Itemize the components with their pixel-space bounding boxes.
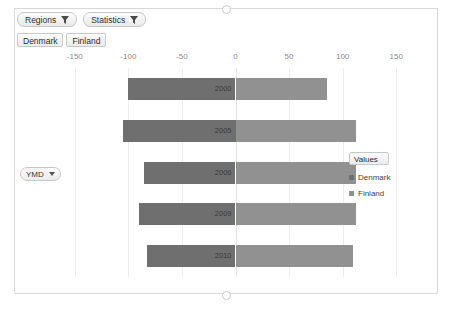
x-tick-label: -50 bbox=[176, 52, 188, 61]
x-tick-label: 100 bbox=[336, 52, 349, 61]
filter-button-statistics[interactable]: Statistics bbox=[83, 12, 146, 27]
bar-row: 2005 bbox=[48, 120, 423, 142]
legend-item-finland[interactable]: Finland bbox=[349, 189, 419, 198]
legend-label-denmark: Denmark bbox=[358, 173, 390, 182]
bar-category-label: 2006 bbox=[215, 162, 236, 184]
bar-segment-finland[interactable] bbox=[236, 245, 354, 267]
filter-button-regions[interactable]: Regions bbox=[17, 12, 77, 27]
filter-toolbar: Regions Statistics bbox=[17, 12, 146, 27]
x-tick-label: 50 bbox=[285, 52, 294, 61]
bar-category-label: 2010 bbox=[215, 245, 236, 267]
x-tick-label: -100 bbox=[120, 52, 136, 61]
slicer-item-denmark[interactable]: Denmark bbox=[17, 33, 63, 47]
bar-segment-finland[interactable] bbox=[236, 162, 356, 184]
hierarchy-dropdown-label: YMD bbox=[26, 170, 44, 179]
chart-legend: Values Denmark Finland bbox=[349, 148, 419, 198]
bar-category-label: 2005 bbox=[215, 120, 236, 142]
legend-swatch-denmark bbox=[349, 175, 354, 180]
bar-segment-finland[interactable] bbox=[236, 203, 356, 225]
legend-swatch-finland bbox=[349, 191, 354, 196]
legend-title[interactable]: Values bbox=[349, 152, 389, 165]
x-axis-tick-labels: -150-100-50050100150 bbox=[48, 52, 423, 68]
filter-regions-label: Regions bbox=[25, 15, 56, 25]
filter-funnel-icon bbox=[61, 16, 69, 24]
bar-segment-finland[interactable] bbox=[236, 120, 356, 142]
bar-segment-finland[interactable] bbox=[236, 78, 327, 100]
slicer-item-finland[interactable]: Finland bbox=[66, 33, 106, 47]
bar-row: 2009 bbox=[48, 203, 423, 225]
filter-funnel-icon bbox=[130, 16, 138, 24]
frame-resize-handle-bottom[interactable] bbox=[222, 291, 231, 300]
bar-category-label: 2000 bbox=[215, 78, 236, 100]
x-tick-label: 150 bbox=[390, 52, 403, 61]
bar-row: 2010 bbox=[48, 245, 423, 267]
bar-row: 2000 bbox=[48, 78, 423, 100]
frame-resize-handle-top[interactable] bbox=[222, 5, 231, 14]
filter-statistics-label: Statistics bbox=[91, 15, 125, 25]
legend-item-denmark[interactable]: Denmark bbox=[349, 173, 419, 182]
x-tick-label: 0 bbox=[233, 52, 237, 61]
bar-category-label: 2009 bbox=[215, 203, 236, 225]
slicer-selected-values: Denmark Finland bbox=[17, 33, 106, 47]
x-tick-label: -150 bbox=[67, 52, 83, 61]
legend-label-finland: Finland bbox=[358, 189, 384, 198]
